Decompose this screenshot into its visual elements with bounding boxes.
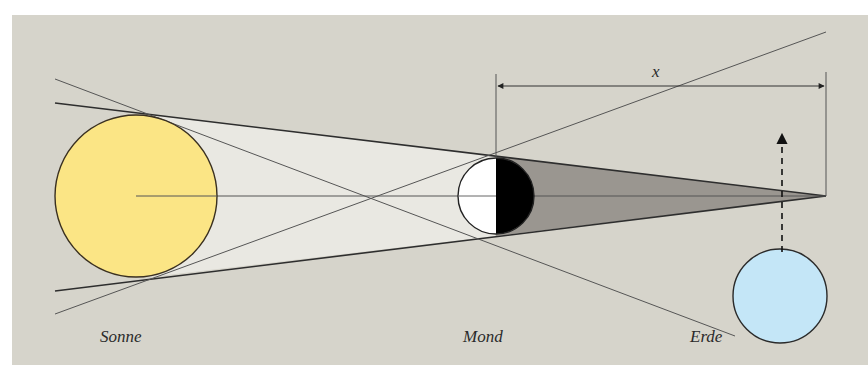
solar-eclipse-diagram: x Sonne Mond Erde (0, 0, 868, 382)
moon (458, 158, 534, 234)
distance-label: x (652, 62, 660, 82)
earth-disc (733, 249, 827, 343)
diagram-canvas (0, 0, 868, 382)
earth-label: Erde (690, 327, 722, 347)
sun-label: Sonne (100, 327, 142, 347)
moon-label: Mond (463, 327, 503, 347)
